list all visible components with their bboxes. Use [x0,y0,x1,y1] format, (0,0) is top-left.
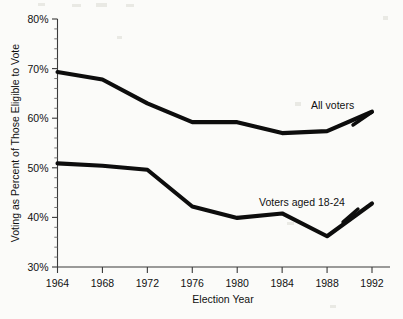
x-tick-label-1988: 1988 [315,277,339,289]
series-label-youth-voters: Voters aged 18-24 [259,196,345,208]
y-tick-label-70: 70% [27,63,48,75]
x-tick-label-1980: 1980 [226,277,250,289]
y-axis-title: Voting as Percent of Those Eligible to V… [9,44,21,242]
x-tick-label-1992: 1992 [360,277,384,289]
y-tick-label-50: 50% [27,162,48,174]
x-tick-label-1972: 1972 [136,277,160,289]
y-tick-label-60: 60% [27,112,48,124]
series-label-all-voters: All voters [311,99,354,111]
line-chart: 30%40%50%60%70%80% 196419681972197619801… [0,0,403,319]
x-tick-label-1976: 1976 [181,277,205,289]
y-tick-label-80: 80% [27,13,48,25]
x-tick-label-1968: 1968 [91,277,115,289]
x-tick-label-1984: 1984 [270,277,294,289]
x-axis-title: Election Year [192,293,254,305]
chart-background [0,0,403,319]
y-tick-label-40: 40% [27,211,48,223]
x-tick-label-1964: 1964 [46,277,70,289]
chart-figure: 30%40%50%60%70%80% 196419681972197619801… [0,0,403,319]
y-tick-label-30: 30% [27,261,48,273]
